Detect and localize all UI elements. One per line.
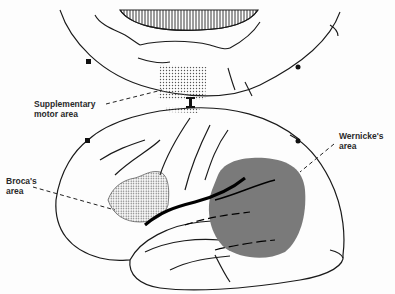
supplementary-motor-label: Supplementary motor area: [34, 99, 95, 119]
marker-square: [86, 59, 91, 64]
broca-label-line2: area: [6, 186, 37, 196]
broca-leader-line: [33, 187, 115, 210]
broca-label: Broca's area: [6, 176, 37, 196]
brain-diagram: Supplementary motor area Wernicke's area…: [0, 0, 395, 294]
wernicke-label-line1: Wernicke's: [339, 131, 383, 141]
supplementary-motor-label-line2: motor area: [34, 109, 95, 119]
supplementary-motor-label-line1: Supplementary: [34, 99, 95, 109]
marker-dot: [296, 139, 301, 144]
wernicke-leader-line: [300, 144, 334, 172]
marker-dot: [296, 65, 301, 70]
wernicke-label-line2: area: [339, 141, 383, 151]
wernicke-label: Wernicke's area: [339, 131, 383, 151]
supplementary-motor-area: [158, 65, 207, 100]
supplementary-leader-line: [106, 90, 162, 104]
marker-square: [85, 138, 90, 143]
broca-label-line1: Broca's: [6, 176, 37, 186]
wernicke-area: [209, 158, 305, 258]
brain-illustration: [0, 0, 395, 294]
